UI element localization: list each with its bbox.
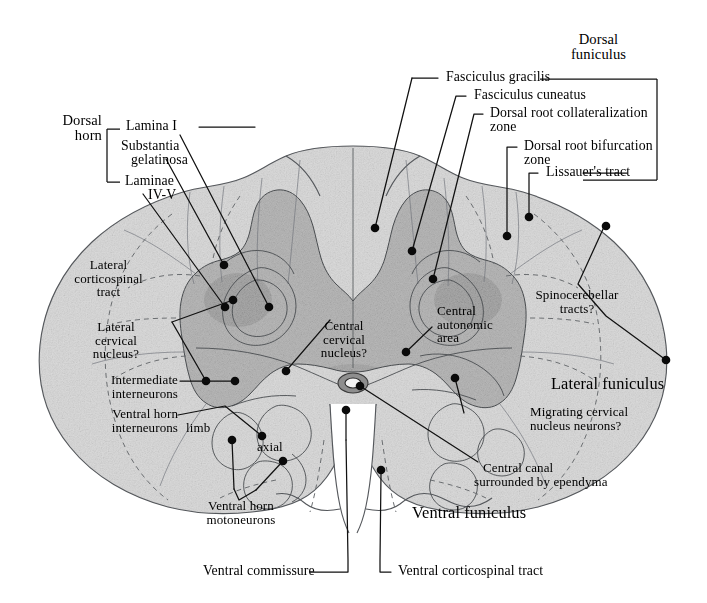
label-migrating-cervical-nucleus-neurons: Migrating cervicalnucleus neurons?: [530, 405, 628, 432]
label-lamina-i: Lamina I: [126, 119, 177, 133]
label-spinocerebellar-tracts: Spinocerebellartracts?: [528, 288, 626, 315]
label-laminae-iv-v: LaminaeIV-V: [125, 174, 176, 203]
label-central-autonomic-area: Centralautonomicarea: [437, 304, 493, 345]
label-limb: limb: [186, 421, 210, 435]
label-ventral-horn-motoneurons: Ventral hornmotoneurons: [186, 499, 296, 526]
label-ventral-horn-interneurons: Ventral horninterneurons: [58, 407, 178, 434]
label-axial: axial: [257, 440, 283, 454]
label-dorsal-funiculus: Dorsalfuniculus: [541, 32, 656, 62]
label-ventral-funiculus: Ventral funiculus: [412, 504, 526, 521]
spinal-cord-figure: Dorsalhorn Lamina I Substantiagelatinosa…: [0, 0, 707, 603]
label-central-canal: Central canalsurrounded by ependyma: [483, 461, 608, 488]
label-lateral-funiculus: Lateral funiculus: [551, 375, 664, 392]
label-intermediate-interneurons: Intermediateinterneurons: [58, 373, 178, 400]
central-canal: [338, 373, 368, 393]
label-central-cervical-nucleus: Centralcervicalnucleus?: [303, 319, 385, 360]
label-lateral-corticospinal-tract: Lateralcorticospinaltract: [56, 258, 161, 299]
label-substantia-gelatinosa: Substantiagelatinosa: [121, 139, 188, 168]
label-fasciculus-cuneatus: Fasciculus cuneatus: [474, 88, 586, 102]
label-fasciculus-gracilis: Fasciculus gracilis: [446, 70, 550, 84]
label-lissauers-tract: Lissauer's tract: [546, 165, 630, 179]
label-ventral-commissure: Ventral commissure: [203, 564, 315, 578]
label-dorsal-root-collateralization-zone: Dorsal root collateralizationzone: [490, 106, 648, 135]
dorsal-horn-bracket: [107, 129, 120, 182]
label-ventral-corticospinal-tract: Ventral corticospinal tract: [398, 564, 543, 578]
label-dorsal-horn: Dorsalhorn: [28, 113, 102, 143]
label-lateral-cervical-nucleus: Lateralcervicalnucleus?: [64, 320, 168, 361]
